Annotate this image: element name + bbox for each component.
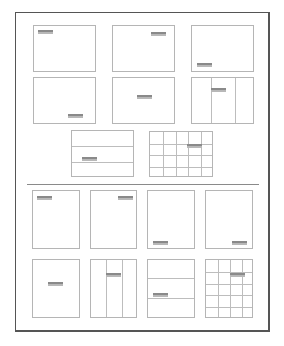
column-line [235,78,236,123]
row-line [206,284,252,285]
placeholder-label [37,196,52,200]
placeholder-label [151,32,166,36]
column-line [211,78,212,123]
placeholder-label [153,241,168,245]
placeholder-label [137,95,152,99]
portrait-template-columns-3 [90,259,137,318]
row-line [150,155,212,156]
landscape-template-bottom-right [33,77,96,124]
portrait-template-top-right [90,190,137,249]
landscape-template-center [112,77,175,124]
column-line [176,132,177,176]
landscape-template-top-right [112,25,175,72]
landscape-template-grid-5x4 [149,131,213,177]
column-line [201,132,202,176]
row-line [150,144,212,145]
row-line [206,272,252,273]
placeholder-label [118,196,133,200]
column-line [188,132,189,176]
placeholder-label [211,88,226,92]
row-line [150,167,212,168]
placeholder-label [197,63,212,67]
column-line [163,132,164,176]
row-line [206,295,252,296]
landscape-template-rows-3 [71,130,134,177]
row-line [206,307,252,308]
landscape-template-top-left [33,25,96,72]
placeholder-label [106,273,121,277]
section-divider [27,184,259,185]
column-line [218,260,219,317]
placeholder-label [153,293,168,297]
portrait-template-center [32,259,80,318]
portrait-template-rows-3 [147,259,195,318]
placeholder-label [38,30,53,34]
placeholder-label [187,144,202,148]
column-line [230,260,231,317]
landscape-template-columns-3 [191,77,254,124]
placeholder-label [230,273,245,277]
column-line [242,260,243,317]
placeholder-label [48,282,63,286]
portrait-template-top-left [32,190,80,249]
portrait-template-bottom-left [147,190,195,249]
row-line [148,278,194,279]
row-line [72,162,133,163]
column-line [122,260,123,317]
landscape-template-bottom-left [191,25,254,72]
row-line [148,298,194,299]
placeholder-label [82,157,97,161]
portrait-template-bottom-right [205,190,253,249]
row-line [72,146,133,147]
portrait-template-grid-4x5 [205,259,253,318]
placeholder-label [68,114,83,118]
placeholder-label [232,241,247,245]
column-line [106,260,107,317]
